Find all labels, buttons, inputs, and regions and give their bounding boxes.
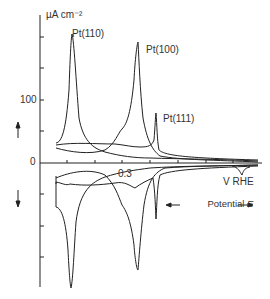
potential-text: Potential E bbox=[189, 198, 253, 209]
label-pt100: Pt(100) bbox=[146, 44, 179, 55]
label-pt111: Pt(111) bbox=[163, 113, 194, 124]
label-pt110: Pt(110) bbox=[72, 28, 104, 39]
x-axis-label: Potential E bbox=[189, 198, 253, 209]
y-tick-0: 0 bbox=[30, 156, 36, 167]
x-tick-0-3: 0.3 bbox=[118, 168, 132, 179]
y-unit-label: µA cm⁻² bbox=[46, 9, 82, 20]
cv-plot bbox=[0, 0, 270, 299]
series-pt100 bbox=[56, 42, 258, 270]
x-unit-label: V RHE bbox=[223, 176, 254, 187]
current-arrows bbox=[16, 122, 20, 207]
y-tick-100: 100 bbox=[20, 94, 37, 105]
